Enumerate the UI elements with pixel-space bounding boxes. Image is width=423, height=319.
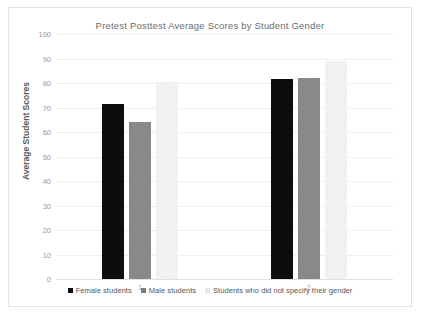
- y-axis-tick-label: 40: [43, 177, 51, 186]
- y-axis-tick-label: 10: [43, 250, 51, 259]
- legend-swatch-icon: [68, 288, 73, 293]
- bar: [325, 61, 347, 279]
- legend-item[interactable]: Male students: [141, 286, 196, 295]
- y-axis-title: Average Student Scores: [21, 71, 31, 191]
- chart-title: Pretest Posttest Average Scores by Stude…: [9, 20, 411, 31]
- legend-item[interactable]: Students who did not specify their gende…: [205, 286, 352, 295]
- plot-area: 1009080706050403020100 12: [56, 34, 393, 279]
- legend-swatch-icon: [205, 288, 210, 293]
- y-axis-tick-label: 50: [43, 152, 51, 161]
- chart-container: Pretest Posttest Average Scores by Stude…: [8, 7, 412, 307]
- legend-label: Male students: [149, 286, 196, 295]
- legend-label: Students who did not specify their gende…: [213, 286, 352, 295]
- y-axis-tick-label: 30: [43, 201, 51, 210]
- legend-label: Female students: [76, 286, 132, 295]
- chart-legend: Female studentsMale studentsStudents who…: [9, 286, 411, 295]
- y-axis-tick-label: 0: [47, 275, 51, 284]
- y-axis-tick-label: 60: [43, 128, 51, 137]
- bar: [271, 79, 293, 279]
- bar: [298, 78, 320, 279]
- y-axis-tick-label: 70: [43, 103, 51, 112]
- gridline: [56, 279, 393, 280]
- y-axis-tick-label: 20: [43, 226, 51, 235]
- y-axis-tick-label: 100: [38, 30, 51, 39]
- y-axis-tick-label: 90: [43, 54, 51, 63]
- bar: [102, 104, 124, 279]
- legend-item[interactable]: Female students: [68, 286, 132, 295]
- bars-layer: [56, 34, 393, 279]
- bar: [156, 82, 178, 279]
- y-axis-tick-label: 80: [43, 79, 51, 88]
- legend-swatch-icon: [141, 288, 146, 293]
- bar: [129, 122, 151, 279]
